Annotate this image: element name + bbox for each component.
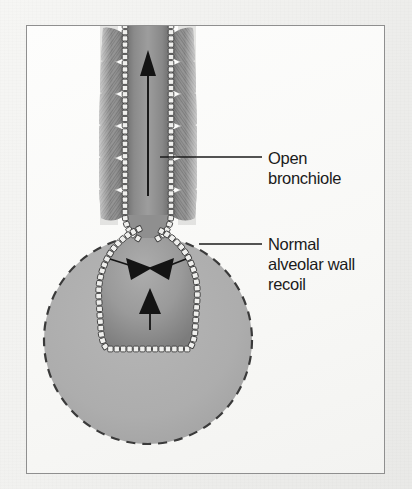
epithelial-cell bbox=[168, 215, 174, 221]
epithelial-cell bbox=[168, 178, 174, 183]
epithelial-cell bbox=[97, 319, 103, 325]
epithelial-cell bbox=[122, 203, 128, 208]
epithelial-cell bbox=[122, 54, 128, 59]
label-open-bronchiole: Open bronchiole bbox=[268, 148, 341, 188]
epithelial-cell bbox=[122, 67, 128, 72]
epithelial-cell bbox=[122, 85, 128, 90]
alveolar-sac bbox=[100, 215, 197, 348]
epithelial-cell bbox=[168, 172, 174, 177]
epithelial-cell bbox=[168, 104, 174, 109]
epithelial-cell bbox=[168, 191, 174, 196]
epithelial-cell bbox=[122, 209, 128, 214]
epithelial-cell bbox=[122, 79, 128, 84]
epithelial-cell bbox=[168, 92, 174, 97]
epithelial-cell bbox=[168, 36, 174, 41]
epithelial-cell bbox=[194, 292, 200, 297]
epithelial-cell bbox=[122, 92, 128, 97]
epithelial-cell bbox=[168, 30, 174, 35]
epithelial-cell bbox=[122, 110, 128, 115]
epithelial-cell bbox=[193, 279, 200, 285]
epithelial-cell bbox=[193, 311, 199, 317]
epithelial-cell bbox=[122, 135, 128, 140]
epithelial-cell bbox=[97, 274, 104, 281]
epithelial-cell bbox=[172, 346, 177, 352]
epithelial-cell bbox=[114, 346, 119, 352]
epithelial-cell bbox=[194, 298, 200, 304]
epithelial-cell bbox=[168, 48, 174, 53]
epithelial-cell bbox=[168, 85, 174, 90]
epithelial-cell bbox=[96, 306, 102, 312]
epithelial-cell bbox=[120, 346, 125, 352]
epithelial-cell bbox=[133, 346, 138, 352]
epithelial-cell bbox=[168, 129, 174, 134]
epithelial-cell bbox=[122, 215, 128, 221]
epithelial-cell bbox=[96, 300, 102, 306]
epithelial-cell bbox=[122, 36, 128, 41]
epithelial-cell bbox=[98, 331, 105, 337]
epithelial-cell bbox=[122, 23, 128, 28]
epithelial-cell bbox=[168, 185, 174, 190]
epithelial-cell bbox=[122, 185, 128, 190]
epithelial-cell bbox=[108, 346, 113, 352]
smooth-muscle-bands-right bbox=[172, 28, 197, 221]
epithelial-cell bbox=[192, 324, 198, 330]
epithelial-cell bbox=[192, 272, 199, 279]
epithelial-cell bbox=[168, 209, 174, 214]
label-normal-alveolar-wall-recoil: Normal alveolar wall recoil bbox=[268, 234, 355, 294]
epithelial-cell bbox=[194, 285, 200, 291]
epithelial-cell bbox=[122, 197, 128, 202]
epithelial-cell bbox=[122, 129, 128, 134]
epithelial-cell bbox=[168, 203, 174, 208]
epithelial-cell bbox=[168, 116, 174, 121]
epithelial-cell bbox=[96, 293, 102, 299]
epithelial-cell bbox=[168, 23, 174, 28]
epithelial-cell bbox=[190, 336, 197, 343]
epithelial-cell bbox=[168, 42, 174, 47]
epithelial-cell bbox=[122, 30, 128, 35]
epithelial-cell bbox=[168, 160, 174, 165]
epithelial-cell bbox=[168, 110, 174, 115]
epithelial-cell bbox=[168, 67, 174, 72]
epithelial-cell bbox=[168, 123, 174, 128]
epithelial-cell bbox=[96, 287, 102, 293]
epithelial-cell bbox=[122, 160, 128, 165]
epithelial-cell bbox=[192, 330, 198, 336]
epithelial-cell bbox=[122, 104, 128, 109]
epithelial-cell bbox=[122, 147, 128, 152]
epithelial-cell bbox=[122, 141, 128, 146]
epithelial-cell bbox=[152, 346, 157, 352]
epithelial-cell bbox=[122, 123, 128, 128]
epithelial-cell bbox=[98, 325, 104, 331]
epithelial-cell bbox=[99, 267, 106, 274]
epithelial-cell bbox=[122, 154, 128, 159]
epithelial-cell bbox=[168, 61, 174, 66]
epithelial-cell bbox=[159, 346, 164, 352]
epithelial-cell bbox=[168, 79, 174, 84]
epithelial-cell bbox=[168, 166, 174, 171]
epithelial-cell bbox=[122, 61, 128, 66]
epithelial-cell bbox=[140, 346, 145, 352]
epithelial-cell bbox=[194, 304, 200, 310]
epithelial-cell bbox=[97, 312, 103, 318]
epithelial-cell bbox=[146, 346, 151, 352]
epithelial-cell bbox=[122, 98, 128, 103]
epithelial-cell bbox=[168, 135, 174, 140]
epithelial-cell bbox=[122, 116, 128, 121]
figure-page: ating ave latuswallthevevtubsw topeduces… bbox=[0, 0, 412, 489]
epithelial-cell bbox=[168, 147, 174, 152]
epithelial-cell bbox=[122, 73, 128, 78]
epithelial-cell bbox=[168, 54, 174, 59]
epithelial-cell bbox=[122, 166, 128, 171]
epithelial-cell bbox=[122, 48, 128, 53]
epithelial-cell bbox=[96, 280, 102, 286]
epithelial-cell bbox=[168, 141, 174, 146]
epithelial-cell bbox=[193, 317, 199, 323]
epithelial-cell bbox=[122, 178, 128, 183]
epithelial-cell bbox=[122, 42, 128, 47]
epithelial-cell bbox=[168, 98, 174, 103]
epithelial-cell bbox=[178, 346, 183, 352]
epithelial-cell bbox=[122, 191, 128, 196]
epithelial-cell bbox=[168, 197, 174, 202]
epithelial-cell bbox=[127, 346, 132, 352]
smooth-muscle-bands-left bbox=[99, 28, 124, 221]
